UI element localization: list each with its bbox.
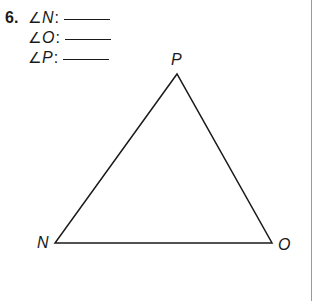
triangle-diagram bbox=[0, 0, 313, 301]
vertex-label-n: N bbox=[37, 234, 49, 252]
vertex-label-p: P bbox=[171, 51, 182, 69]
vertex-label-o: O bbox=[278, 236, 290, 254]
triangle-npo bbox=[55, 74, 272, 243]
